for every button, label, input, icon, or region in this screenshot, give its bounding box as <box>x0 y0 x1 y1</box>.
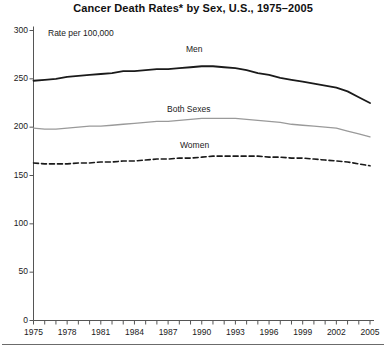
y-tick-label: 100 <box>2 218 28 228</box>
y-tick-label: 250 <box>2 73 28 83</box>
series-line-men <box>34 66 371 103</box>
x-tick-label: 1993 <box>220 327 250 337</box>
y-tick-label: 200 <box>2 121 28 131</box>
x-tick-label: 1981 <box>86 327 116 337</box>
x-tick-label: 1987 <box>153 327 183 337</box>
series-label-men: Men <box>186 44 203 54</box>
x-tick-label: 1990 <box>187 327 217 337</box>
y-tick-label: 0 <box>2 315 28 325</box>
y-tick-label: 50 <box>2 266 28 276</box>
series-label-both-sexes: Both Sexes <box>167 104 210 114</box>
x-tick-label: 1996 <box>254 327 284 337</box>
x-tick-label: 2005 <box>355 327 385 337</box>
series-label-women: Women <box>180 140 209 150</box>
x-tick-label: 1978 <box>52 327 82 337</box>
chart-container: Cancer Death Rates* by Sex, U.S., 1975–2… <box>0 0 386 350</box>
x-tick-label: 1984 <box>119 327 149 337</box>
y-tick-label: 300 <box>2 25 28 35</box>
series-line-both-sexes <box>34 118 371 136</box>
bottom-divider <box>2 344 384 345</box>
x-tick-label: 2002 <box>321 327 351 337</box>
x-tick-label: 1999 <box>288 327 318 337</box>
y-tick-label: 150 <box>2 170 28 180</box>
x-tick-label: 1975 <box>19 327 49 337</box>
series-line-women <box>34 156 371 166</box>
